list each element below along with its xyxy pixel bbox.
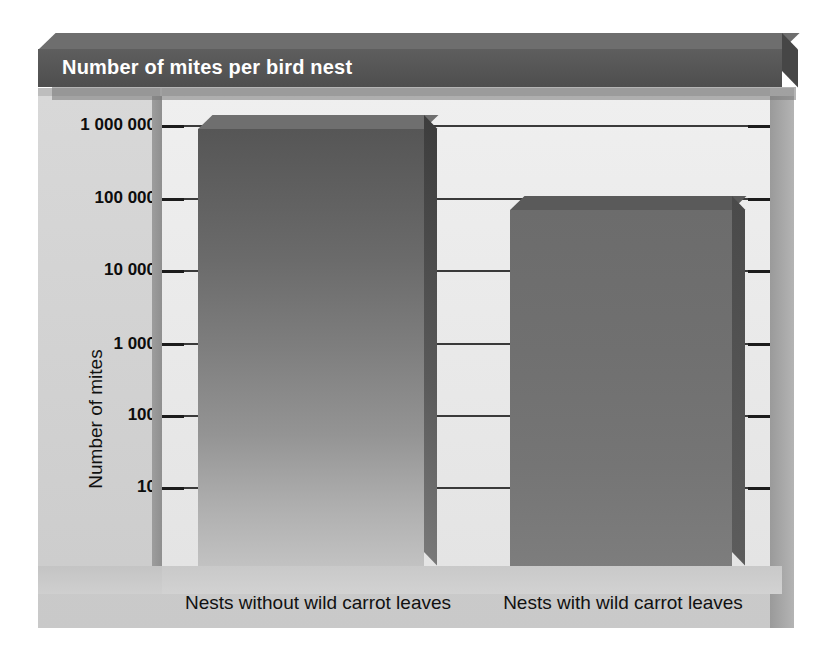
- plot-area: [162, 96, 770, 566]
- bar-2-side-face: [732, 196, 745, 565]
- plot-floor-left-lip: [38, 566, 162, 594]
- bar-2-front-face: [510, 210, 732, 566]
- y-axis-strip-side-bevel: [152, 96, 162, 566]
- y-tick-label-100: 100: [42, 405, 160, 425]
- bar-1-top-face: [198, 115, 438, 129]
- bar-nests-without-wild-carrot-leaves: [198, 129, 424, 566]
- y-tick-mark-10000: [162, 270, 184, 273]
- y-tick-mark-right-100000: [748, 198, 770, 201]
- chart-title: Number of mites per bird nest: [62, 56, 352, 79]
- x-category-label-0: Nests without wild carrot leaves: [168, 592, 468, 614]
- y-tick-label-1000: 1 000: [42, 334, 160, 354]
- chart-figure: Number of mites per bird nest Number of …: [0, 0, 826, 657]
- title-bar-shadow: [52, 87, 796, 100]
- bar-1-side-face: [424, 115, 437, 565]
- y-tick-mark-right-100: [748, 415, 770, 418]
- y-tick-mark-100: [162, 415, 184, 418]
- y-tick-mark-10: [162, 487, 184, 490]
- y-tick-label-100000: 100 000: [42, 188, 160, 208]
- y-tick-mark-right-10: [748, 487, 770, 490]
- bar-nests-with-wild-carrot-leaves: [510, 210, 732, 566]
- y-tick-mark-right-1000000: [748, 125, 770, 128]
- y-tick-mark-1000000: [162, 125, 184, 128]
- x-category-label-1: Nests with wild carrot leaves: [478, 592, 768, 614]
- bar-2-top-face: [510, 196, 746, 210]
- title-bar-top-bevel: [38, 33, 800, 50]
- y-tick-label-10000: 10 000: [42, 260, 160, 280]
- title-bar-side-bevel: [782, 33, 798, 88]
- y-tick-mark-1000: [162, 343, 184, 346]
- plot-floor: [162, 566, 782, 594]
- bar-1-front-face: [198, 129, 424, 566]
- y-tick-label-10: 10: [42, 477, 160, 497]
- chart-panel-right-bevel: [770, 96, 794, 628]
- y-axis-strip: Number of mites 1 000 000 100 000 10 000…: [38, 96, 160, 566]
- y-tick-label-1000000: 1 000 000: [42, 115, 160, 135]
- y-tick-mark-right-10000: [748, 270, 770, 273]
- y-tick-mark-right-1000: [748, 343, 770, 346]
- y-tick-mark-100000: [162, 198, 184, 201]
